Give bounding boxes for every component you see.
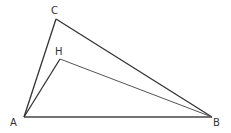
label-c: C xyxy=(51,6,58,16)
triangle-diagram: C H A B xyxy=(0,0,231,133)
diagram-lines xyxy=(0,0,231,133)
segment-ac xyxy=(24,19,56,117)
label-a: A xyxy=(10,118,17,128)
segment-hb xyxy=(60,59,212,117)
segment-cb xyxy=(56,19,212,117)
segment-ah xyxy=(24,59,60,117)
label-b: B xyxy=(213,118,220,128)
label-h: H xyxy=(55,47,63,57)
